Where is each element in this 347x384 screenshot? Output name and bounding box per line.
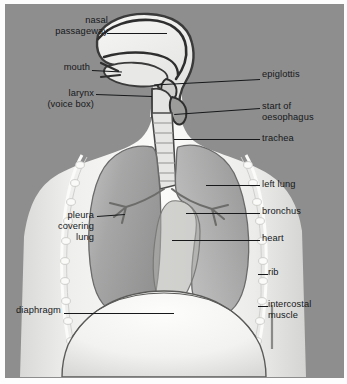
respiratory-system-diagram: nasal passageway mouth larynx (voice box… <box>0 0 347 384</box>
label-nasal-passageway: nasal passageway <box>20 15 108 37</box>
leader-diaphragm <box>64 313 174 314</box>
label-rib: rib <box>268 267 308 278</box>
label-left-lung: left lung <box>262 179 328 190</box>
label-trachea: trachea <box>262 133 328 144</box>
leader-nasal-passageway <box>107 33 167 34</box>
leader-left-lung <box>206 185 260 186</box>
label-heart: heart <box>262 233 316 244</box>
leader-rib <box>258 274 268 275</box>
label-intercostal-muscle: intercostal muscle <box>268 299 344 321</box>
label-pleura: pleura covering lung <box>20 210 94 244</box>
label-epiglottis: epiglottis <box>262 69 342 80</box>
leader-intercostal-muscle <box>258 306 268 307</box>
leader-bronchus <box>186 213 260 214</box>
figure-frame: nasal passageway mouth larynx (voice box… <box>5 4 344 378</box>
label-diaphragm: diaphragm <box>16 305 86 316</box>
label-oesophagus: start of oesophagus <box>262 101 344 123</box>
leader-trachea <box>174 139 260 140</box>
label-bronchus: bronchus <box>262 206 332 217</box>
label-mouth: mouth <box>28 62 90 73</box>
label-larynx: larynx (voice box) <box>18 88 94 110</box>
leader-heart <box>172 240 260 241</box>
